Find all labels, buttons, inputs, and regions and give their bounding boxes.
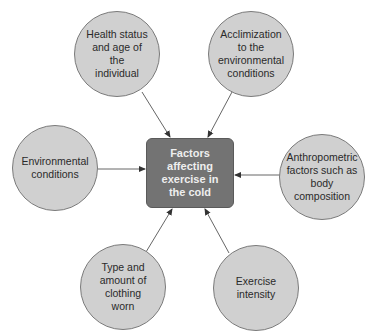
node-anthropometric-factors: Anthropometric factors such as body comp… — [279, 134, 365, 220]
arrow-clothing-to-center — [146, 209, 172, 252]
node-acclimization: Acclimization to the environmental condi… — [208, 11, 294, 97]
node-label: Environmental conditions — [17, 155, 92, 181]
diagram-canvas: Health status and age of the individual … — [0, 0, 373, 336]
arrow-intensity-to-center — [205, 209, 229, 253]
arrow-health-to-center — [142, 92, 170, 137]
node-label: Exercise intensity — [232, 275, 280, 301]
node-label: Type and amount of clothing worn — [96, 261, 151, 313]
node-exercise-intensity: Exercise intensity — [213, 245, 299, 331]
node-clothing: Type and amount of clothing worn — [80, 244, 166, 330]
node-label: Acclimization to the environmental condi… — [214, 28, 288, 80]
center-hub-label: Factors affecting exercise in the cold — [162, 147, 219, 199]
node-health-status: Health status and age of the individual — [74, 11, 160, 97]
arrow-acclimization-to-center — [208, 92, 232, 137]
node-environmental-conditions: Environmental conditions — [12, 125, 98, 211]
node-label: Health status and age of the individual — [82, 28, 151, 80]
node-label: Anthropometric factors such as body comp… — [282, 151, 361, 203]
center-hub-box: Factors affecting exercise in the cold — [146, 138, 234, 208]
